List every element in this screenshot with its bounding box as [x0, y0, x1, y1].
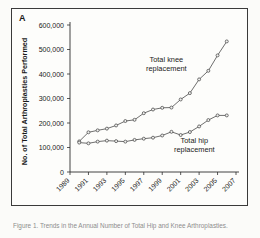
data-point-marker: [87, 131, 90, 134]
x-tick-label: 2005: [202, 177, 218, 193]
data-point-marker: [188, 131, 191, 134]
series-label-hip: Total hip replacement: [174, 136, 215, 154]
y-tick-label: 100,000: [39, 144, 64, 151]
y-tick-label: 300,000: [39, 95, 64, 102]
data-point-marker: [198, 125, 201, 128]
data-point-marker: [133, 118, 136, 121]
y-tick-label: 500,000: [39, 46, 64, 53]
data-point-marker: [115, 124, 118, 127]
x-axis-tick-labels: 1989199119931995199719992001200320052007: [55, 177, 237, 193]
data-point-marker: [216, 114, 219, 117]
series-label-knee: Total knee replacement: [146, 55, 187, 73]
data-point-marker: [142, 137, 145, 140]
data-point-marker: [152, 108, 155, 111]
x-tick-label: 1989: [55, 177, 71, 193]
data-point-marker: [179, 98, 182, 101]
data-point-marker: [225, 40, 228, 43]
y-axis-tick-labels: 0100,000200,000300,000400,000500,000600,…: [39, 22, 64, 176]
data-point-marker: [216, 54, 219, 57]
x-tick-label: 1995: [110, 177, 126, 193]
x-tick-label: 2001: [165, 177, 181, 193]
y-tick-label: 200,000: [39, 120, 64, 127]
y-tick-label: 400,000: [39, 71, 64, 78]
data-point-marker: [170, 130, 173, 133]
data-point-marker: [115, 140, 118, 143]
line-chart-plot: 0100,000200,000300,000400,000500,000600,…: [0, 0, 260, 238]
data-point-marker: [124, 120, 127, 123]
y-tick-label: 0: [60, 169, 64, 176]
data-point-marker: [161, 106, 164, 109]
x-tick-label: 1991: [73, 177, 89, 193]
figure-caption: Figure 1. Trends in the Annual Number of…: [13, 222, 247, 230]
data-point-marker: [105, 127, 108, 130]
figure-panel-a: A No. of Total Arthroplasties Performed …: [0, 0, 260, 238]
data-point-marker: [170, 106, 173, 109]
data-point-marker: [161, 134, 164, 137]
data-point-marker: [133, 138, 136, 141]
data-point-marker: [225, 114, 228, 117]
data-point-marker: [142, 112, 145, 115]
data-point-marker: [152, 136, 155, 139]
x-tick-label: 1999: [147, 177, 163, 193]
data-point-marker: [207, 119, 210, 122]
data-point-marker: [124, 140, 127, 143]
data-point-marker: [207, 69, 210, 72]
x-tick-label: 2007: [221, 177, 237, 193]
data-point-marker: [78, 141, 81, 144]
x-tick-label: 1993: [92, 177, 108, 193]
x-tick-label: 2003: [184, 177, 200, 193]
data-point-marker: [87, 142, 90, 145]
data-point-marker: [96, 129, 99, 132]
data-point-marker: [198, 78, 201, 81]
x-tick-label: 1997: [129, 177, 145, 193]
data-point-marker: [96, 140, 99, 143]
y-tick-label: 600,000: [39, 22, 64, 29]
data-point-marker: [105, 139, 108, 142]
data-point-marker: [188, 92, 191, 95]
